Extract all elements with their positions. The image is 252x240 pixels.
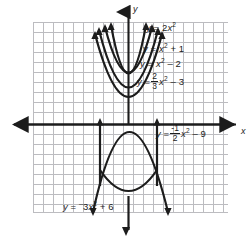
- eq5-equals: =: [164, 128, 170, 139]
- eq3-constant: 2: [176, 58, 181, 69]
- equation-label-1: y = 2x2: [146, 23, 176, 33]
- equation-label-2: y = x2 + 1: [143, 44, 184, 54]
- equation-label-3: y = x2 – 2: [140, 59, 181, 69]
- eq4-fraction: 23: [151, 72, 158, 90]
- eq6-operator: +: [100, 201, 106, 212]
- eq2-equals: =: [151, 43, 157, 54]
- eq3-equals: =: [148, 58, 154, 69]
- graph-figure: y = 2x2 y = x2 + 1 y = x2 – 2 y =23x2 – …: [0, 0, 252, 240]
- eq4-exponent: 2: [164, 75, 168, 82]
- eq2-constant: 1: [179, 43, 184, 54]
- descending-arms: [100, 124, 157, 230]
- eq5-fraction: -12: [170, 124, 180, 142]
- eq5-constant: 9: [201, 128, 206, 139]
- eq6-exponent: 2: [93, 200, 97, 207]
- eq2-exponent: 2: [164, 42, 168, 49]
- equation-label-4: y =23x2 – 3: [137, 72, 184, 90]
- eq3-lhs: y: [140, 58, 145, 69]
- eq1-lhs: y: [146, 22, 151, 33]
- coordinate-plane: [0, 0, 252, 240]
- eq4-operator: –: [170, 76, 175, 87]
- eq3-exponent: 2: [161, 57, 165, 64]
- curve-y-neg3x2-plus-6: [100, 170, 157, 191]
- x-axis-label: x: [241, 126, 246, 136]
- eq5-operator: –: [192, 128, 197, 139]
- eq4-denominator: 3: [151, 82, 158, 91]
- eq1-equals: =: [154, 22, 160, 33]
- eq2-operator: +: [170, 43, 176, 54]
- equation-label-6: y = –3x2 + 6: [63, 202, 114, 212]
- equation-label-5: y =-12x2 – 9: [156, 124, 206, 142]
- eq4-constant: 3: [179, 76, 184, 87]
- eq4-equals: =: [145, 76, 151, 87]
- eq3-operator: –: [167, 58, 172, 69]
- eq6-constant: 6: [108, 201, 113, 212]
- eq5-denominator: 2: [170, 134, 180, 143]
- eq2-lhs: y: [143, 43, 148, 54]
- y-axis-label: y: [133, 4, 138, 14]
- eq1-exponent: 2: [172, 21, 176, 28]
- grid-lines: [33, 22, 228, 213]
- eq5-exponent: 2: [186, 127, 190, 134]
- eq5-lhs: y: [156, 128, 161, 139]
- eq4-lhs: y: [137, 76, 142, 87]
- axes: [14, 12, 236, 125]
- eq6-lhs: y: [63, 201, 68, 212]
- eq6-equals: =: [71, 201, 77, 212]
